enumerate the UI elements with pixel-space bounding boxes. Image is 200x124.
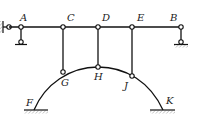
label-g: G bbox=[61, 77, 69, 88]
label-k: K bbox=[165, 95, 174, 106]
structural-diagram: A C D E B G H J F K bbox=[0, 0, 200, 124]
hinge-j bbox=[130, 74, 134, 78]
support-b-vertical bbox=[174, 27, 188, 48]
hinge-a bbox=[19, 25, 23, 29]
label-f: F bbox=[25, 97, 34, 108]
label-e: E bbox=[136, 12, 145, 23]
hinge-b bbox=[179, 25, 183, 29]
hinge-c bbox=[61, 25, 65, 29]
label-j: J bbox=[122, 80, 129, 91]
support-f-fixed bbox=[24, 110, 48, 114]
hinge-e bbox=[130, 25, 134, 29]
support-k-fixed bbox=[150, 110, 175, 114]
label-a: A bbox=[19, 12, 27, 23]
hinge-g bbox=[61, 70, 65, 74]
label-h: H bbox=[93, 71, 103, 82]
label-d: D bbox=[101, 12, 110, 23]
label-c: C bbox=[67, 12, 75, 23]
hinge-h bbox=[96, 65, 100, 69]
label-b: B bbox=[169, 12, 177, 23]
hinge-d bbox=[96, 25, 100, 29]
